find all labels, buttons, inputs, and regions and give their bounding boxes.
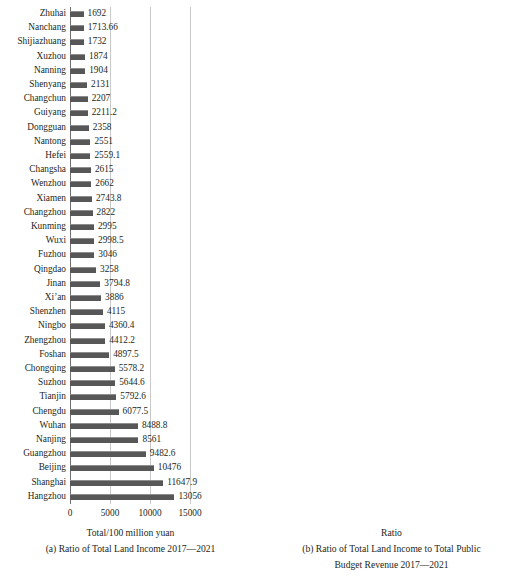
value-label: 9482.6 xyxy=(150,446,176,460)
bar-row: Shanghai11647.9 xyxy=(70,476,190,490)
category-label: Suzhou xyxy=(38,375,66,389)
bar-row: Shenyang2131 xyxy=(70,78,190,92)
bar-row: Chengdu6077.5 xyxy=(70,405,190,419)
value-label: 1713.66 xyxy=(88,20,118,34)
panel-caption-b-line2: Budget Revenue 2017—2021 xyxy=(261,559,522,570)
figure-container: Zhuhai1692Nanchang1713.66Shijiazhuang173… xyxy=(0,0,522,581)
value-label: 2551 xyxy=(94,134,113,148)
category-label: Dongguan xyxy=(27,120,66,134)
category-label: Zhuhai xyxy=(40,6,66,20)
bar xyxy=(70,409,119,415)
category-label: Shenzhen xyxy=(30,304,66,318)
bar-row: Fuzhou3046 xyxy=(70,248,190,262)
bar xyxy=(70,451,146,457)
category-label: Nanjing xyxy=(36,432,66,446)
bar-row: Guiyang2211.2 xyxy=(70,106,190,120)
bar xyxy=(70,68,85,74)
value-label: 4897.5 xyxy=(113,347,139,361)
value-label: 2207 xyxy=(92,91,111,105)
category-label: Xi’an xyxy=(45,290,66,304)
category-label: Hefei xyxy=(45,148,66,162)
bar xyxy=(70,139,90,145)
bar xyxy=(70,480,163,486)
bar-row: Kunming2995 xyxy=(70,220,190,234)
category-label: Jinan xyxy=(46,276,66,290)
category-label: Tianjin xyxy=(39,389,66,403)
bar xyxy=(70,494,174,500)
x-tick-label: 0 xyxy=(68,508,73,518)
bar-row: Jinan3794.8 xyxy=(70,277,190,291)
bar xyxy=(70,11,84,17)
bar xyxy=(70,281,100,287)
bar-row: Nantong2551 xyxy=(70,135,190,149)
bar xyxy=(70,309,103,315)
bar-row: Wuxi2998.5 xyxy=(70,234,190,248)
x-axis-title-b: Ratio xyxy=(261,527,522,538)
bar xyxy=(70,54,85,60)
category-label: Wuxi xyxy=(46,233,66,247)
value-label: 2998.5 xyxy=(98,233,124,247)
value-label: 6077.5 xyxy=(123,404,149,418)
bar xyxy=(70,153,90,159)
value-label: 3258 xyxy=(100,262,119,276)
value-label: 11647.9 xyxy=(167,475,197,489)
bar xyxy=(70,380,115,386)
value-label: 5792.6 xyxy=(120,389,146,403)
bar xyxy=(70,338,105,344)
bar xyxy=(70,167,91,173)
bar xyxy=(70,196,92,202)
category-label: Shanghai xyxy=(31,475,66,489)
value-label: 2211.2 xyxy=(92,105,117,119)
bar xyxy=(70,110,88,116)
plot-area-a: Zhuhai1692Nanchang1713.66Shijiazhuang173… xyxy=(70,7,190,504)
bar xyxy=(70,25,84,31)
category-label: Xuzhou xyxy=(37,49,66,63)
value-label: 2743.8 xyxy=(96,191,122,205)
category-label: Changchun xyxy=(24,91,66,105)
value-label: 8488.8 xyxy=(142,418,168,432)
bar xyxy=(70,423,138,429)
value-label: 3794.8 xyxy=(104,276,130,290)
bar xyxy=(70,210,93,216)
category-label: Guangzhou xyxy=(23,446,66,460)
bar-row: Changsha2615 xyxy=(70,163,190,177)
chart-panel-a: Zhuhai1692Nanchang1713.66Shijiazhuang173… xyxy=(0,0,261,581)
category-label: Nanning xyxy=(34,63,66,77)
bar-row: Hangzhou13056 xyxy=(70,490,190,504)
value-label: 3886 xyxy=(105,290,124,304)
x-tick-label: 10000 xyxy=(138,508,161,518)
value-label: 1874 xyxy=(89,49,108,63)
value-label: 3046 xyxy=(98,247,117,261)
category-label: Fuzhou xyxy=(38,247,66,261)
value-label: 1692 xyxy=(88,6,107,20)
gridline-a-3 xyxy=(190,7,191,504)
panel-caption-b: (b) Ratio of Total Land Income to Total … xyxy=(261,543,522,554)
category-label: Chengdu xyxy=(32,404,66,418)
bar xyxy=(70,394,116,400)
value-label: 1904 xyxy=(89,63,108,77)
x-tick-label: 15000 xyxy=(178,508,201,518)
bar-row: Wuhan8488.8 xyxy=(70,419,190,433)
category-label: Wenzhou xyxy=(31,176,66,190)
value-label: 4412.2 xyxy=(109,333,135,347)
value-label: 5578.2 xyxy=(119,361,145,375)
category-label: Ningbo xyxy=(38,318,66,332)
category-label: Chongqing xyxy=(25,361,66,375)
category-label: Nanchang xyxy=(28,20,66,34)
bar-row: Dongguan2358 xyxy=(70,121,190,135)
bar xyxy=(70,82,87,88)
value-label: 2662 xyxy=(95,176,114,190)
bar xyxy=(70,465,154,471)
value-label: 5644.6 xyxy=(119,375,145,389)
bar-row: Wenzhou2662 xyxy=(70,177,190,191)
bar xyxy=(70,323,105,329)
bar xyxy=(70,437,138,443)
category-label: Nantong xyxy=(34,134,66,148)
bar xyxy=(70,39,84,45)
bar xyxy=(70,352,109,358)
category-label: Wuhan xyxy=(40,418,66,432)
bar xyxy=(70,125,89,131)
category-label: Hangzhou xyxy=(28,489,66,503)
category-label: Qingdao xyxy=(34,262,66,276)
bar xyxy=(70,366,115,372)
